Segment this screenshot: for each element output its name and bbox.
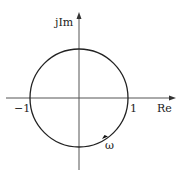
- real-axis-label: Re: [157, 102, 172, 115]
- unit-circle-diagram: jIm Re −1 1 ω: [0, 0, 185, 178]
- tick-label-pos-one: 1: [130, 102, 137, 115]
- imag-axis-label: jIm: [53, 16, 74, 29]
- imag-axis: [77, 12, 82, 170]
- real-axis-arrow-icon: [169, 96, 176, 101]
- imag-axis-arrow-icon: [77, 12, 82, 19]
- omega-label: ω: [105, 139, 114, 152]
- tick-label-neg-one: −1: [14, 102, 30, 115]
- real-axis: [6, 96, 176, 101]
